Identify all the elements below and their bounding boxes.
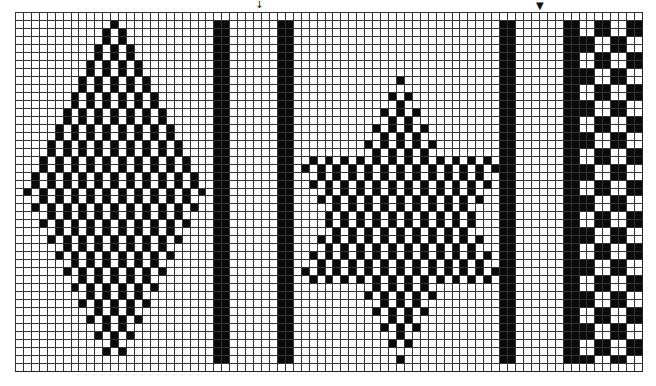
filled-cell (317, 267, 325, 275)
empty-cell (332, 156, 340, 164)
filled-cell (420, 283, 428, 291)
filled-cell (586, 203, 594, 211)
empty-cell (63, 219, 71, 227)
filled-cell (182, 195, 190, 203)
empty-cell (253, 180, 261, 188)
empty-cell (158, 100, 166, 108)
empty-cell (47, 68, 55, 76)
empty-cell (531, 148, 539, 156)
empty-cell (634, 323, 642, 331)
empty-cell (317, 100, 325, 108)
empty-cell (166, 203, 174, 211)
filled-cell (420, 307, 428, 315)
empty-cell (86, 339, 94, 347)
empty-cell (126, 251, 134, 259)
filled-cell (213, 211, 221, 219)
filled-cell (467, 180, 475, 188)
empty-cell (245, 28, 253, 36)
filled-cell (626, 52, 634, 60)
empty-cell (269, 172, 277, 180)
empty-cell (118, 355, 126, 363)
empty-cell (420, 315, 428, 323)
empty-cell (444, 148, 452, 156)
empty-cell (340, 267, 348, 275)
filled-cell (364, 172, 372, 180)
empty-cell (205, 60, 213, 68)
filled-cell (86, 188, 94, 196)
empty-cell (182, 36, 190, 44)
empty-cell (380, 331, 388, 339)
empty-cell (213, 12, 221, 20)
empty-cell (301, 195, 309, 203)
filled-cell (618, 331, 626, 339)
filled-cell (372, 156, 380, 164)
empty-cell (23, 203, 31, 211)
empty-cell (229, 227, 237, 235)
empty-cell (380, 283, 388, 291)
empty-cell (586, 243, 594, 251)
filled-cell (594, 219, 602, 227)
empty-cell (348, 339, 356, 347)
empty-cell (198, 275, 206, 283)
filled-cell (563, 180, 571, 188)
filled-cell (571, 299, 579, 307)
empty-cell (340, 164, 348, 172)
empty-cell (515, 124, 523, 132)
filled-cell (594, 315, 602, 323)
filled-cell (507, 275, 515, 283)
filled-cell (396, 76, 404, 84)
empty-cell (340, 132, 348, 140)
empty-cell (428, 84, 436, 92)
empty-cell (293, 339, 301, 347)
empty-cell (261, 331, 269, 339)
empty-cell (428, 36, 436, 44)
empty-cell (166, 180, 174, 188)
empty-cell (452, 100, 460, 108)
filled-cell (563, 36, 571, 44)
filled-cell (602, 339, 610, 347)
filled-cell (634, 339, 642, 347)
empty-cell (269, 195, 277, 203)
empty-cell (142, 68, 150, 76)
empty-cell (55, 116, 63, 124)
empty-cell (555, 211, 563, 219)
filled-cell (579, 100, 587, 108)
empty-cell (380, 347, 388, 355)
empty-cell (63, 20, 71, 28)
filled-cell (467, 156, 475, 164)
empty-cell (198, 283, 206, 291)
empty-cell (356, 267, 364, 275)
empty-cell (340, 355, 348, 363)
empty-cell (444, 108, 452, 116)
empty-cell (483, 44, 491, 52)
empty-cell (23, 195, 31, 203)
empty-cell (579, 84, 587, 92)
empty-cell (71, 299, 79, 307)
empty-cell (579, 12, 587, 20)
empty-cell (237, 243, 245, 251)
empty-cell (539, 132, 547, 140)
filled-cell (213, 68, 221, 76)
empty-cell (634, 267, 642, 275)
empty-cell (39, 172, 47, 180)
empty-cell (356, 355, 364, 363)
empty-cell (444, 84, 452, 92)
empty-cell (317, 28, 325, 36)
filled-cell (483, 180, 491, 188)
empty-cell (388, 235, 396, 243)
filled-cell (507, 20, 515, 28)
filled-cell (134, 251, 142, 259)
empty-cell (78, 124, 86, 132)
empty-cell (380, 92, 388, 100)
empty-cell (174, 315, 182, 323)
empty-cell (229, 68, 237, 76)
empty-cell (412, 44, 420, 52)
empty-cell (515, 68, 523, 76)
empty-cell (166, 148, 174, 156)
filled-cell (31, 203, 39, 211)
empty-cell (325, 76, 333, 84)
empty-cell (356, 60, 364, 68)
empty-cell (317, 307, 325, 315)
empty-cell (340, 347, 348, 355)
empty-cell (190, 20, 198, 28)
